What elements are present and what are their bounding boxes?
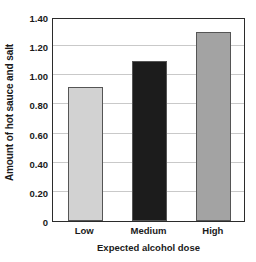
- x-axis-title: Expected alcohol dose: [52, 242, 245, 253]
- bar-low: [68, 87, 103, 221]
- y-axis-title-text: Amount of hot sauce and salt: [5, 43, 16, 180]
- y-tick-label: 0.60: [30, 129, 49, 140]
- bar-chart-figure: Amount of hot sauce and salt 00.200.400.…: [0, 0, 256, 262]
- x-tick-label-high: High: [202, 225, 223, 236]
- bar-medium: [132, 61, 167, 221]
- x-axis-tick-labels: LowMediumHigh: [52, 225, 245, 239]
- plot-area: [52, 18, 245, 222]
- bar-high: [196, 32, 231, 221]
- y-tick-label: 1.20: [30, 42, 49, 53]
- y-tick-label: 0.80: [30, 100, 49, 111]
- x-tick-label-medium: Medium: [131, 225, 167, 236]
- y-axis-title: Amount of hot sauce and salt: [0, 0, 20, 224]
- y-axis-tick-labels: 00.200.400.600.801.001.201.40: [18, 12, 50, 224]
- x-tick-label-low: Low: [75, 225, 94, 236]
- y-tick-label: 1.00: [30, 71, 49, 82]
- y-tick-label: 0.40: [30, 158, 49, 169]
- y-tick-label: 0.20: [30, 187, 49, 198]
- y-tick-label: 1.40: [30, 13, 49, 24]
- y-tick-label: 0: [43, 217, 48, 228]
- bars-layer: [53, 19, 244, 221]
